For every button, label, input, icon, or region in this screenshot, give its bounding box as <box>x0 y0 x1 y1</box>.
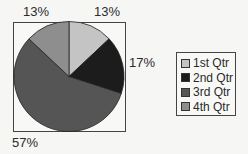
legend-swatch-3rd-qtr <box>181 88 190 97</box>
legend-label: 4th Qtr <box>193 100 230 114</box>
legend: 1st Qtr 2nd Qtr 3rd Qtr 4th Qtr <box>176 52 236 116</box>
pie <box>14 22 124 132</box>
legend-swatch-1st-qtr <box>181 59 190 68</box>
legend-label: 1st Qtr <box>193 56 229 70</box>
label-2nd-qtr: 17% <box>129 56 155 70</box>
legend-item-3rd-qtr: 3rd Qtr <box>181 85 235 100</box>
legend-swatch-2nd-qtr <box>181 73 190 82</box>
legend-label: 3rd Qtr <box>193 85 230 99</box>
label-1st-qtr: 13% <box>94 5 120 19</box>
legend-item-4th-qtr: 4th Qtr <box>181 100 235 115</box>
legend-item-1st-qtr: 1st Qtr <box>181 56 235 71</box>
legend-swatch-4th-qtr <box>181 102 190 111</box>
label-3rd-qtr: 57% <box>12 136 38 150</box>
label-4th-qtr: 13% <box>23 5 49 19</box>
legend-item-2nd-qtr: 2nd Qtr <box>181 71 235 86</box>
legend-label: 2nd Qtr <box>193 71 233 85</box>
